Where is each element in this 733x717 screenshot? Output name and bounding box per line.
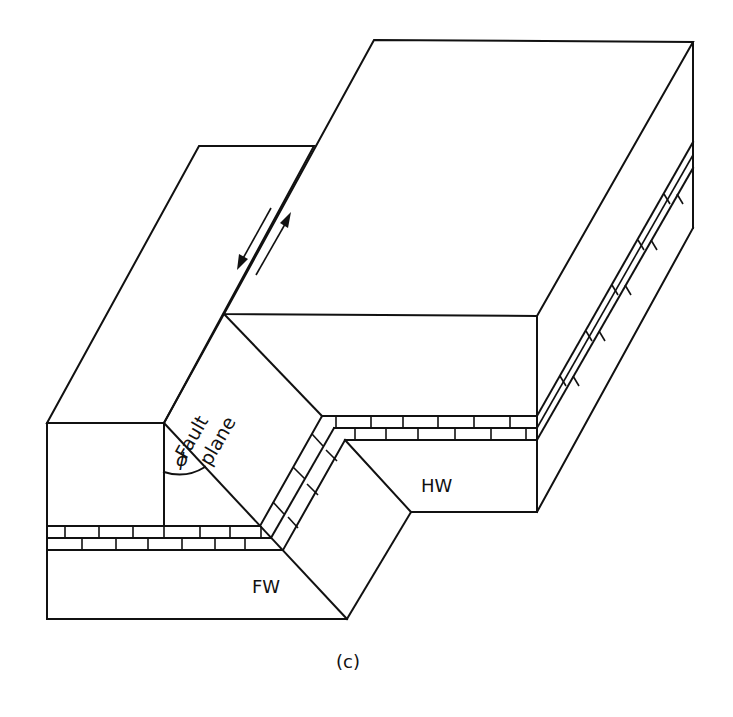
fault-block-diagram: Fault plane ϕ HW FW (c) [0,0,733,717]
footwall-label: FW [252,576,280,597]
hanging-wall-top-face [224,40,693,316]
footwall-top-face [47,146,314,423]
arrow-head-down-icon [237,254,248,270]
dip-angle-symbol: ϕ [176,449,188,470]
footwall-block [47,146,347,619]
arrow-head-up-icon [280,212,291,228]
fault-plane [164,314,411,619]
hanging-wall-label: HW [421,475,453,496]
figure-caption: (c) [336,651,360,672]
hanging-wall-block [224,40,693,512]
